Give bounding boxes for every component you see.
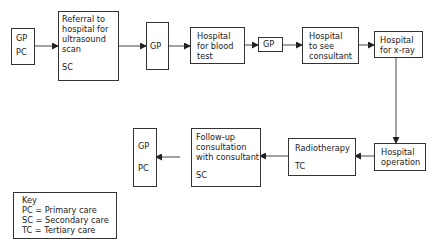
node-label: Hospital [197,31,238,41]
node-gp-2: GP [146,22,169,70]
node-gp-start: GP PC [11,28,35,65]
node-label: GP [138,141,152,151]
node-label: Radiotherapy [295,143,349,153]
node-label: operation [381,157,419,167]
legend-entry: SC = Secondary care [22,215,108,225]
node-label: for x-ray [380,45,417,55]
node-hospital-xray: Hospital for x-ray [374,31,423,58]
node-label: scan [62,44,115,54]
node-label: Follow-up [196,132,256,142]
legend-key: Key PC = Primary care SC = Secondary car… [13,192,117,239]
legend-entry: PC = Primary care [22,205,108,215]
node-label: test [197,51,238,61]
care-level-code: PC [16,47,30,57]
node-label: Hospital [381,147,419,157]
node-hospital-operation: Hospital operation [374,143,426,171]
node-label: consultation [196,142,256,152]
node-label: with consultant [196,152,256,162]
node-label: GP [263,39,278,49]
node-label: hospital for [62,24,115,34]
node-label: Hospital [309,31,352,41]
care-level-code: SC [196,170,256,180]
node-label: to see [309,41,352,51]
node-hospital-blood-test: Hospital for blood test [190,27,245,64]
node-label: Hospital [380,35,417,45]
node-label: Referral to [62,14,115,24]
node-hospital-consultant: Hospital to see consultant [302,27,359,64]
node-label: for blood [197,41,238,51]
node-follow-up-consultation: Follow-up consultation with consultant S… [191,128,261,187]
node-label: ultrasound [62,34,115,44]
legend-entry: TC = Tertiary care [22,225,108,235]
node-radiotherapy: Radiotherapy TC [288,138,356,176]
node-referral-ultrasound: Referral to hospital for ultrasound scan… [58,11,119,81]
legend-title: Key [22,195,108,205]
node-label: GP [150,41,165,51]
care-level-code: TC [295,161,349,171]
care-level-code: SC [62,62,115,72]
node-gp-3: GP [258,37,283,52]
node-label: GP [16,33,30,43]
care-level-code: PC [138,163,152,173]
node-gp-end: GP PC [133,128,157,187]
node-label: consultant [309,51,352,61]
